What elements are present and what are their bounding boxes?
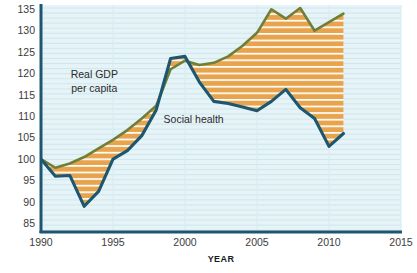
y-axis-tick-label: 85 bbox=[23, 217, 35, 229]
y-axis-tick-label: 90 bbox=[23, 196, 35, 208]
x-axis-title: YEAR bbox=[208, 254, 235, 264]
y-axis-tick-label: 110 bbox=[18, 110, 35, 122]
x-axis-tick-label: 2015 bbox=[389, 236, 413, 248]
y-axis-tick-label: 130 bbox=[17, 24, 35, 36]
x-axis-tick-label: 1990 bbox=[29, 236, 53, 248]
y-axis-tick-label: 120 bbox=[17, 67, 35, 79]
gdp-social-health-area-chart: 859095100105110115120125130135 199019952… bbox=[0, 0, 417, 273]
x-axis-tick-label: 1995 bbox=[101, 236, 125, 248]
series-annotation-label: Real GDP bbox=[71, 68, 118, 80]
y-axis-tick-label: 115 bbox=[18, 89, 35, 101]
y-axis-tick-label: 105 bbox=[17, 131, 35, 143]
chart-svg-wrapper: 859095100105110115120125130135 199019952… bbox=[0, 0, 417, 273]
y-axis-tick-label: 100 bbox=[17, 153, 35, 165]
y-axis-tick-label: 125 bbox=[17, 46, 35, 58]
series-annotation-label: per capita bbox=[71, 82, 117, 94]
x-axis-tick-label: 2010 bbox=[317, 236, 341, 248]
chart-container: 859095100105110115120125130135 199019952… bbox=[0, 0, 417, 273]
y-axis-tick-label: 95 bbox=[23, 174, 35, 186]
series-annotation-label: Social health bbox=[164, 113, 224, 125]
y-axis-tick-label: 135 bbox=[17, 3, 35, 15]
x-axis-tick-label: 2005 bbox=[245, 236, 269, 248]
x-axis-tick-label: 2000 bbox=[173, 236, 197, 248]
